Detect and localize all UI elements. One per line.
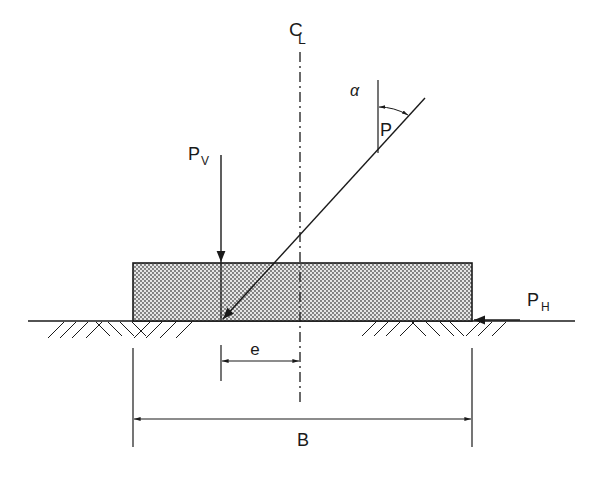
centerline-label-sub: L	[298, 31, 306, 47]
ground-hatch-right	[362, 322, 506, 336]
horizontal-load-label: P	[527, 290, 539, 310]
vertical-load-label-sub: V	[201, 154, 209, 168]
inclined-load-label: P	[380, 120, 392, 140]
footing-diagram: C L P V P α P H e B	[0, 0, 594, 477]
footing-block	[133, 263, 472, 321]
eccentricity-label: e	[250, 340, 259, 359]
angle-label: α	[350, 82, 360, 99]
width-label: B	[297, 430, 309, 450]
ground-hatch-left	[48, 322, 192, 338]
horizontal-load-label-sub: H	[541, 300, 550, 314]
vertical-load-label: P	[188, 144, 200, 164]
angle-arc	[379, 107, 408, 115]
